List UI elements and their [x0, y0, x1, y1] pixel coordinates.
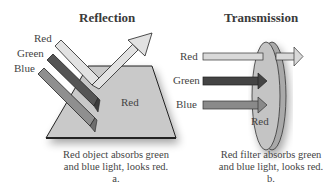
reflection-caption-letter: a.	[56, 173, 176, 185]
transmission-caption-line1: Red filter absorbs green	[209, 149, 333, 161]
reflection-label-red: Red	[34, 32, 52, 44]
reflection-caption: Red object absorbs green and blue light,…	[56, 149, 176, 185]
reflection-caption-line1: Red object absorbs green	[56, 149, 176, 161]
reflection-surface-label: Red	[121, 96, 139, 108]
transmission-caption: Red filter absorbs green and blue light,…	[209, 149, 333, 185]
transmission-caption-line2: and blue light, looks red.	[209, 161, 333, 173]
reflection-caption-line2: and blue light, looks red.	[56, 161, 176, 173]
transmission-label-red: Red	[180, 50, 198, 62]
reflection-label-green: Green	[17, 47, 44, 59]
transmission-filter-label: Red	[251, 115, 269, 127]
transmission-label-green: Green	[173, 74, 200, 86]
reflection-label-blue: Blue	[14, 62, 35, 74]
transmission-label-blue: Blue	[176, 98, 197, 110]
transmission-caption-letter: b.	[209, 173, 333, 185]
transmission-red-beam	[203, 47, 303, 66]
reflection-title: Reflection	[79, 10, 135, 26]
transmission-title: Transmission	[224, 10, 298, 26]
